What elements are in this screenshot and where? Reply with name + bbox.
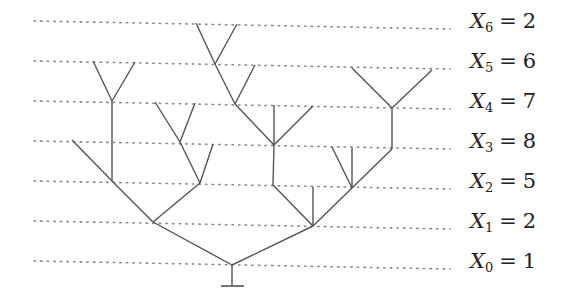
generation-count: 2 (523, 209, 536, 233)
branching-tree-diagram: X6=2 X5=6 X4=7 X3=8 X2=5 X1=2 X0=1 (0, 0, 576, 302)
generation-count: 5 (523, 169, 536, 193)
tree-branch (180, 142, 200, 183)
generation-guide-line (34, 141, 450, 149)
generation-label-6: X6=2 (470, 11, 536, 34)
tree-branch (215, 24, 237, 64)
generation-guide-line (34, 21, 450, 29)
tree-branch (153, 222, 232, 265)
tree-branch (235, 65, 255, 104)
tree-branch (72, 140, 112, 181)
tree-branch (274, 106, 313, 145)
generation-guide-line (34, 261, 450, 269)
generation-label-4: X4=7 (470, 91, 536, 114)
tree-branch (232, 226, 313, 265)
tree-branch (112, 181, 153, 222)
generation-count: 1 (523, 249, 536, 273)
tree-branch (392, 70, 432, 108)
tree-branch (112, 62, 135, 101)
generation-count: 2 (523, 9, 536, 33)
generation-label-2: X2=5 (470, 171, 536, 194)
tree-branch (93, 61, 112, 101)
tree-branch (235, 104, 274, 145)
tree-branch (352, 68, 392, 108)
generation-label-3: X3=8 (470, 131, 536, 154)
tree-branch (180, 103, 195, 142)
generation-label-0: X0=1 (470, 251, 536, 274)
tree-branch (196, 23, 215, 64)
tree-branch (215, 64, 235, 104)
tree-branch (153, 183, 200, 222)
generation-label-1: X1=2 (470, 211, 536, 234)
generation-guide-line (34, 221, 450, 229)
tree-branch (313, 188, 352, 226)
tree-branch (273, 185, 313, 226)
tree-branch (155, 102, 180, 142)
generation-guide-line (34, 181, 450, 189)
generation-guide-line (34, 101, 450, 109)
tree-branch (352, 149, 392, 188)
generation-label-5: X5=6 (470, 51, 536, 74)
generation-count: 7 (523, 89, 536, 113)
generation-count: 8 (523, 129, 536, 153)
tree-branch (332, 147, 352, 188)
tree-branch (200, 144, 213, 183)
generation-count: 6 (523, 49, 536, 73)
tree-branch (273, 145, 274, 185)
